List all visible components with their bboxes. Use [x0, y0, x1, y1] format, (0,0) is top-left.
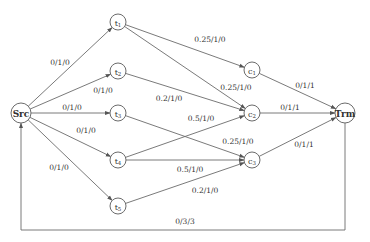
- node-t1: t1: [110, 14, 126, 30]
- node-Trm: Trm: [335, 103, 356, 123]
- edge-Src-t5: [28, 120, 112, 201]
- node-t4: t4: [110, 152, 126, 168]
- edge-label-Trm-Src: 0/3/3: [175, 217, 195, 226]
- edge-label-c2-Trm: 0/1/1: [280, 103, 299, 112]
- node-Src: Src: [11, 103, 31, 123]
- node-t3: t3: [110, 105, 126, 121]
- flow-network-diagram: 0/1/00/1/00/1/00/1/00/1/00.25/1/00.25/1/…: [0, 0, 370, 242]
- edge-label-Src-t4: 0/1/0: [76, 126, 96, 135]
- node-c1: c1: [244, 62, 260, 78]
- edge-label-t5-c3: 0.2/1/0: [192, 186, 219, 195]
- edge-t1-c1: [126, 25, 245, 68]
- edge-label-t1-c2: 0.25/1/0: [220, 83, 252, 92]
- edge-t2-c2: [126, 73, 245, 110]
- node-c3: c3: [244, 152, 260, 168]
- node-c2: c2: [244, 105, 260, 121]
- edge-label-t3-c3: 0.25/1/0: [222, 137, 254, 146]
- edge-t1-c2: [125, 26, 246, 108]
- edge-label-Src-t1: 0/1/0: [50, 58, 70, 67]
- edge-label-t4-c3: 0.5/1/0: [177, 165, 204, 174]
- edge-Src-t4: [30, 117, 111, 156]
- edge-label-Src-t2: 0/1/0: [93, 86, 113, 95]
- edge-label-Src-t3: 0/1/0: [62, 103, 82, 112]
- node-t5: t5: [110, 198, 126, 214]
- node-label-Src: Src: [13, 109, 30, 119]
- edge-label-Src-t5: 0/1/0: [49, 163, 69, 172]
- edge-labels-layer: 0/1/00/1/00/1/00/1/00/1/00.25/1/00.25/1/…: [49, 35, 314, 226]
- edge-label-c3-Trm: 0/1/1: [294, 140, 313, 149]
- edge-label-t4-c2: 0.5/1/0: [188, 114, 215, 123]
- edge-label-c1-Trm: 0/1/1: [295, 81, 314, 90]
- edge-c3-Trm: [259, 118, 336, 157]
- node-t2: t2: [110, 63, 126, 79]
- edge-label-t2-c2: 0.2/1/0: [156, 94, 183, 103]
- edge-label-t1-c1: 0.25/1/0: [194, 35, 226, 44]
- edges-layer: [21, 25, 345, 230]
- node-label-Trm: Trm: [335, 109, 356, 119]
